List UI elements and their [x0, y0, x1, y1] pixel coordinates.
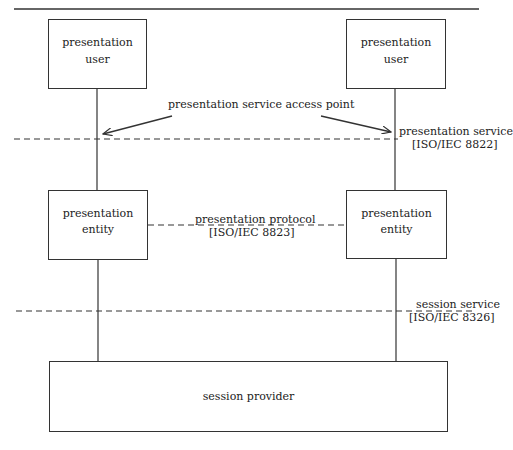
box-label: entity	[347, 219, 446, 241]
presentation-protocol-label: presentation protocol	[195, 213, 315, 226]
session-provider-box: session provider	[49, 361, 448, 432]
presentation-user-right-box: presentation user	[346, 19, 446, 89]
box-label: user	[49, 49, 146, 71]
box-label: entity	[49, 219, 147, 241]
session-service-label: session service	[416, 298, 500, 311]
presentation-entity-left-box: presentation entity	[48, 190, 148, 260]
access-point-label: presentation service access point	[168, 98, 354, 111]
box-label: user	[347, 49, 445, 71]
presentation-protocol-standard: [ISO/IEC 8823]	[209, 226, 294, 239]
presentation-service-standard: [ISO/IEC 8822]	[412, 138, 497, 151]
session-provider-label: session provider	[50, 386, 447, 408]
access-point-arrow-left	[103, 116, 172, 134]
presentation-user-left-box: presentation user	[48, 19, 147, 89]
presentation-service-label: presentation service	[399, 125, 513, 138]
access-point-arrow-right	[321, 116, 391, 132]
presentation-entity-right-box: presentation entity	[346, 190, 447, 259]
session-service-standard: [ISO/IEC 8326]	[409, 311, 494, 324]
